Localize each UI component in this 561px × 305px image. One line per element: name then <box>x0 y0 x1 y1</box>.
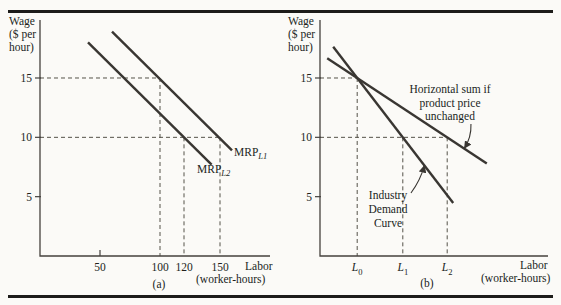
industry-demand-label: Industry Demand Curve <box>353 188 423 230</box>
panel-b-chart: 15105L0L1L2 <box>0 0 561 305</box>
panel-a-y-axis-title: Wage ($ per hour) <box>9 15 36 54</box>
panel-b-x-axis-units: (worker-hours) <box>481 272 550 285</box>
x-tick-label: L1 <box>396 261 408 277</box>
y-tick-label: 5 <box>306 191 312 203</box>
panel-a-x-axis-title: Labor <box>245 260 272 273</box>
panel-b-y-axis-title: Wage ($ per hour) <box>288 15 315 54</box>
horizontal-sum-label: Horizontal sum if product price unchange… <box>385 83 515 124</box>
panel-b-x-axis-title: Labor <box>520 259 547 272</box>
figure: 1510550100120150 15105L0L1L2 Wage ($ per… <box>0 0 561 305</box>
panel-a-label: (a) <box>148 278 170 291</box>
x-tick-label: L2 <box>441 261 453 277</box>
y-tick-label: 10 <box>301 131 313 143</box>
panel-a-x-axis-units: (worker-hours) <box>196 273 265 286</box>
mrp-l2-curve-label: MRPL2 <box>197 163 230 176</box>
mrp-l1-curve-label: MRPL1 <box>234 146 267 159</box>
industry-demand-curve-curve <box>333 47 453 203</box>
x-tick-label: L0 <box>351 261 363 277</box>
y-tick-label: 15 <box>301 72 313 84</box>
panel-b-label: (b) <box>416 277 438 290</box>
horizontal-sum-label-arrow <box>464 124 471 148</box>
